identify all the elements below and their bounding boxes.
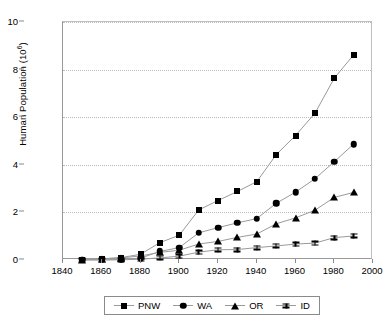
legend-label: PNW bbox=[138, 300, 160, 311]
y-tick-mark bbox=[19, 68, 24, 69]
y-tick-mark bbox=[19, 259, 24, 260]
y-tick-label: 4 bbox=[13, 158, 18, 169]
legend-item-pnw[interactable]: PNW bbox=[114, 300, 160, 311]
x-tick-mark bbox=[178, 259, 179, 263]
legend-item-or[interactable]: OR bbox=[225, 300, 263, 311]
gridline bbox=[63, 212, 371, 213]
x-tick-label: 1900 bbox=[168, 265, 189, 276]
y-tick-mark bbox=[19, 211, 24, 212]
y-tick-mark bbox=[19, 163, 24, 164]
x-tick-label: 1840 bbox=[51, 265, 72, 276]
x-tick-mark bbox=[62, 259, 63, 263]
legend-symbol-icon bbox=[283, 303, 290, 308]
chart-legend: PNWWAORID bbox=[104, 296, 320, 315]
x-tick-label: 1860 bbox=[90, 265, 111, 276]
legend-item-wa[interactable]: WA bbox=[173, 300, 212, 311]
y-axis-title: Human Population (106) bbox=[16, 9, 28, 179]
legend-symbol-icon bbox=[180, 302, 187, 309]
x-tick-label: 1920 bbox=[206, 265, 227, 276]
legend-symbol-icon bbox=[121, 303, 127, 309]
y-tick-label: 6 bbox=[13, 111, 18, 122]
legend-marker-wa-icon bbox=[173, 302, 193, 310]
y-tick-mark bbox=[19, 116, 24, 117]
legend-label: WA bbox=[197, 300, 212, 311]
y-tick-label: 10 bbox=[7, 16, 18, 27]
x-tick-label: 1880 bbox=[129, 265, 150, 276]
gridline bbox=[63, 70, 371, 71]
legend-label: ID bbox=[300, 300, 310, 311]
y-axis-title-suffix: ) bbox=[17, 42, 28, 45]
legend-marker-or-icon bbox=[225, 302, 245, 310]
x-tick-mark bbox=[295, 259, 296, 263]
gridline bbox=[63, 117, 371, 118]
legend-marker-pnw-icon bbox=[114, 302, 134, 310]
legend-item-id[interactable]: ID bbox=[276, 300, 310, 311]
y-tick-mark bbox=[19, 21, 24, 22]
x-tick-mark bbox=[333, 259, 334, 263]
gridline bbox=[63, 22, 371, 23]
legend-marker-id-icon bbox=[276, 302, 296, 310]
y-tick-label: 2 bbox=[13, 206, 18, 217]
x-tick-mark bbox=[140, 259, 141, 263]
population-line-chart: Human Population (106) 0246810 184018601… bbox=[0, 0, 386, 328]
plot-area bbox=[62, 21, 372, 259]
y-axis-title-exponent: 6 bbox=[16, 46, 23, 50]
gridline bbox=[63, 165, 371, 166]
legend-symbol-icon bbox=[231, 302, 239, 309]
y-axis-title-text: Human Population (10 bbox=[17, 49, 28, 146]
y-axis: Human Population (106) 0246810 bbox=[0, 0, 62, 260]
legend-label: OR bbox=[249, 300, 263, 311]
x-tick-label: 1960 bbox=[284, 265, 305, 276]
y-tick-label: 0 bbox=[13, 254, 18, 265]
x-tick-label: 1980 bbox=[323, 265, 344, 276]
x-tick-mark bbox=[101, 259, 102, 263]
x-tick-label: 1940 bbox=[245, 265, 266, 276]
gridlines bbox=[63, 22, 371, 258]
x-tick-mark bbox=[256, 259, 257, 263]
x-tick-mark bbox=[217, 259, 218, 263]
x-tick-label: 2000 bbox=[361, 265, 382, 276]
x-axis: 184018601880190019201940196019802000 bbox=[62, 259, 373, 285]
y-tick-label: 8 bbox=[13, 63, 18, 74]
x-tick-mark bbox=[372, 259, 373, 263]
